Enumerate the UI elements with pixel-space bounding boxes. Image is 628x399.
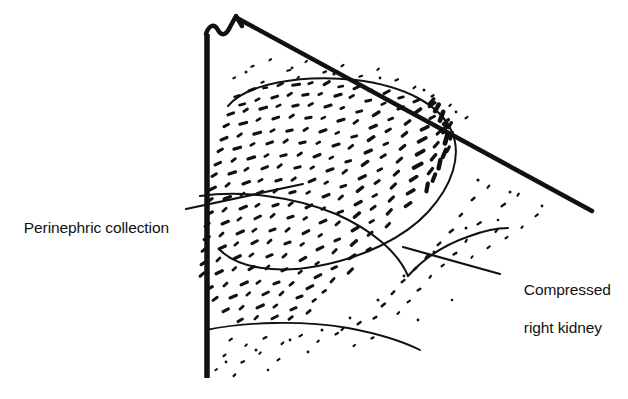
ultrasound-figure: Perinephric collection Compressed right … <box>0 0 628 399</box>
compressed-right-kidney-text-line1: Compressed <box>524 281 611 298</box>
compressed-right-kidney-text-line2: right kidney <box>524 319 602 336</box>
perinephric-collection-text: Perinephric collection <box>24 219 169 236</box>
perinephric-collection-label: Perinephric collection <box>7 199 169 256</box>
compressed-right-kidney-label: Compressed right kidney <box>507 261 611 356</box>
